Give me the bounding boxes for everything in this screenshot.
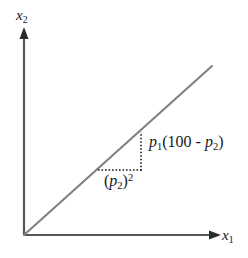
x-axis-label-subscript: 1 xyxy=(229,234,234,245)
slope-triangle xyxy=(98,132,142,171)
diagonal-line xyxy=(24,66,212,235)
rise-label-term-subscript: 2 xyxy=(213,141,218,152)
run-label-subscript: 2 xyxy=(117,180,122,191)
x-axis xyxy=(24,231,221,240)
x-axis-label-base: x xyxy=(222,227,229,243)
run-label: (p2)2 xyxy=(104,173,133,189)
rise-label-suffix: ) xyxy=(218,133,223,150)
y-axis-arrowhead-icon xyxy=(20,27,29,39)
x-axis-label: x1 xyxy=(222,228,234,243)
x-axis-arrowhead-icon xyxy=(209,231,221,240)
y-axis-label: x2 xyxy=(16,8,28,23)
y-axis-label-subscript: 2 xyxy=(23,14,28,25)
y-axis-label-base: x xyxy=(16,7,23,23)
diagram-svg xyxy=(0,0,248,258)
rise-label-expression: (100 - xyxy=(162,133,205,150)
rise-label-prefix-subscript: 1 xyxy=(157,141,162,152)
figure-canvas: x2 x1 p1(100 - p2) (p2)2 xyxy=(0,0,248,258)
rise-label-prefix-base: p xyxy=(149,133,157,150)
rise-label: p1(100 - p2) xyxy=(149,134,224,150)
y-axis xyxy=(20,27,29,235)
rise-label-term-base: p xyxy=(205,133,213,150)
run-label-exponent: 2 xyxy=(128,172,133,183)
